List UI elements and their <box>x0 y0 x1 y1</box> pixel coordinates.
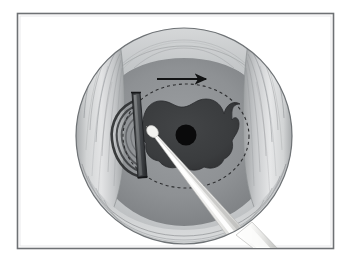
figure-root: Grayscale medical illustration of a circ… <box>0 0 351 263</box>
central-opening <box>176 125 197 146</box>
surgical-illustration <box>0 0 351 263</box>
